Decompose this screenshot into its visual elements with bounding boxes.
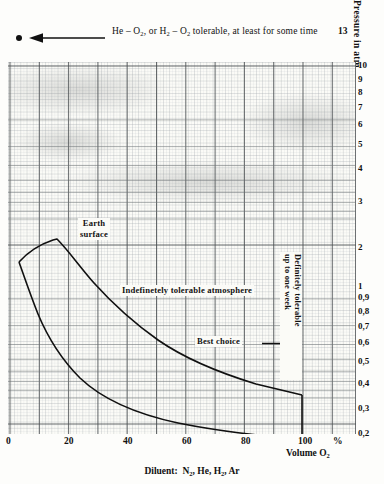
x-tick-40: 40 [123,436,133,446]
annotation-definitely-tolerable: Definitely tolerable up to one week [280,252,302,380]
y-tick-0-7: 0,7 [358,321,369,331]
y-tick-2: 2 [358,242,363,252]
plot-canvas [8,62,356,434]
y-tick-9: 9 [358,74,363,84]
x-axis-percent-sign: % [333,436,343,446]
y-tick-10: 10 [358,60,367,70]
top-banner: He – O2, or H2 – O2 tolerable, at least … [0,26,384,52]
plot-area [8,62,356,434]
y-tick-0-3: 0,3 [358,403,369,413]
x-axis-title: Volume O2 [286,448,330,459]
y-tick-4: 4 [358,163,363,173]
x-tick-60: 60 [182,436,192,446]
y-tick-7: 7 [358,102,363,112]
y-tick-0-2: 0,2 [358,428,369,438]
y-tick-8: 8 [358,87,363,97]
chart-figure: He – O2, or H2 – O2 tolerable, at least … [0,0,384,484]
y-tick-13: 13 [338,26,348,36]
x-tick-0: 0 [6,436,11,446]
y-tick-1: 1 [358,281,363,291]
y-tick-6: 6 [358,119,363,129]
y-tick-3: 3 [358,196,363,206]
x-tick-80: 80 [241,436,251,446]
definitely-tolerable-line1: Definitely tolerable [292,254,302,378]
left-arrow-icon [27,31,107,45]
earth-surface-line1: Earth [80,218,108,229]
x-tick-20: 20 [64,436,74,446]
annotation-indefinitely-tolerable: Indefinetely tolerable atmosphere [120,285,254,296]
y-tick-0-8: 0,8 [358,306,369,316]
earth-surface-line2: surface [80,229,108,240]
definitely-tolerable-line2: up to one week [282,254,292,378]
banner-dot-marker [16,35,22,41]
figure-caption: Diluent: N2, He, H2, Ar [0,466,384,477]
y-tick-0-5: 0,5 [358,356,369,366]
y-tick-0-6: 0,6 [358,337,369,347]
annotation-earth-surface: Earth surface [78,218,110,240]
annotation-best-choice: Best choice [195,336,242,347]
y-tick-0-4: 0,4 [358,378,369,388]
x-tick-100: 100 [298,436,312,446]
y-tick-5: 5 [358,139,363,149]
y-tick-0-9: 0,9 [358,292,369,302]
banner-label: He – O2, or H2 – O2 tolerable, at least … [112,26,332,37]
